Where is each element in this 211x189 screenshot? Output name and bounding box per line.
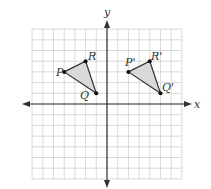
- y-axis-down-arrow-icon: [104, 180, 110, 188]
- coordinate-plane: x y P R Q P' R' Q': [0, 0, 211, 189]
- y-axis-label: y: [103, 6, 111, 19]
- label-q-prime: Q': [162, 81, 174, 94]
- label-r-prime: R': [150, 50, 162, 63]
- vertex-point: [84, 59, 88, 63]
- label-r: R: [87, 50, 96, 63]
- label-p: P: [55, 66, 64, 79]
- vertex-point: [94, 91, 98, 95]
- label-q: Q: [80, 89, 89, 102]
- x-axis-label: x: [194, 98, 201, 111]
- y-axis-up-arrow-icon: [104, 20, 110, 28]
- x-axis-right-arrow-icon: [184, 101, 192, 107]
- label-p-prime: P': [124, 56, 135, 69]
- vertex-point: [126, 70, 130, 74]
- x-axis-left-arrow-icon: [22, 101, 30, 107]
